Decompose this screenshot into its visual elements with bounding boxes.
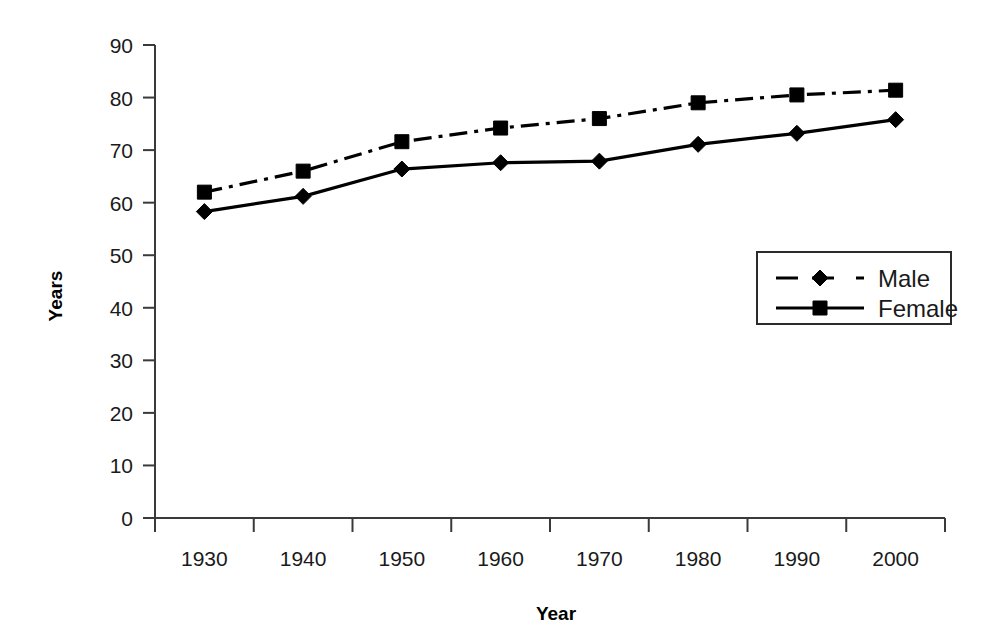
x-tick-label: 1950: [379, 547, 426, 570]
data-point-diamond: [394, 161, 410, 177]
series-group: [196, 83, 903, 219]
data-point-square: [691, 96, 705, 110]
y-tick-label: 80: [110, 87, 133, 110]
data-point-square: [197, 185, 211, 199]
data-point-diamond: [295, 188, 311, 204]
y-tick-label: 0: [121, 507, 133, 530]
data-point-diamond: [493, 155, 509, 171]
x-axis-ticks: 19301940195019601970198019902000: [155, 518, 945, 570]
x-tick-label: 1980: [675, 547, 722, 570]
data-point-diamond: [591, 153, 607, 169]
y-tick-label: 10: [110, 454, 133, 477]
data-point-square: [790, 88, 804, 102]
x-tick-label: 1960: [477, 547, 524, 570]
data-point-diamond: [789, 125, 805, 141]
legend-marker-square: [813, 301, 827, 315]
data-point-diamond: [196, 204, 212, 220]
x-tick-label: 2000: [872, 547, 919, 570]
data-point-square: [296, 164, 310, 178]
legend-label-male: Male: [878, 265, 930, 292]
data-point-square: [494, 121, 508, 135]
y-tick-label: 70: [110, 139, 133, 162]
y-tick-label: 90: [110, 34, 133, 57]
x-tick-label: 1930: [181, 547, 228, 570]
y-tick-label: 30: [110, 349, 133, 372]
y-tick-label: 60: [110, 192, 133, 215]
data-point-square: [395, 135, 409, 149]
x-axis-title: Year: [536, 603, 577, 624]
data-point-diamond: [690, 136, 706, 152]
legend: MaleFemale: [757, 252, 958, 324]
data-point-square: [889, 83, 903, 97]
chart-canvas: 0102030405060708090 19301940195019601970…: [0, 0, 1002, 643]
x-tick-label: 1990: [774, 547, 821, 570]
y-tick-label: 50: [110, 244, 133, 267]
line-chart: 0102030405060708090 19301940195019601970…: [0, 0, 1002, 643]
legend-label-female: Female: [878, 295, 958, 322]
y-axis-title: Years: [45, 271, 66, 322]
y-tick-label: 40: [110, 297, 133, 320]
x-tick-label: 1940: [280, 547, 327, 570]
y-axis-ticks: 0102030405060708090: [110, 34, 155, 530]
data-point-diamond: [888, 112, 904, 128]
x-tick-label: 1970: [576, 547, 623, 570]
data-point-square: [592, 112, 606, 126]
y-tick-label: 20: [110, 402, 133, 425]
